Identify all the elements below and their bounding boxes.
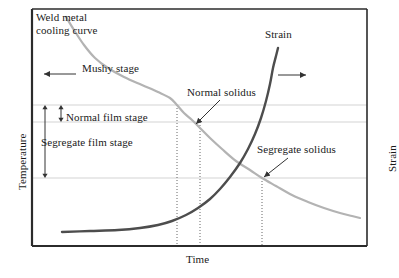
segregate-solidus-pointer	[264, 158, 288, 177]
dotted-vertical-lines	[177, 105, 262, 246]
segregate-film-stage-span-head-bottom	[42, 174, 47, 178]
label-segregate-solidus: Segregate solidus	[257, 143, 336, 156]
label-segregate-film-stage: Segregate film stage	[41, 136, 133, 149]
label-mushy-stage: Mushy stage	[82, 62, 139, 75]
segregate-film-stage-span-head-top	[42, 105, 47, 109]
annotation-arrows	[42, 74, 306, 178]
normal-film-stage-span-head-bottom	[58, 118, 63, 122]
y-axis-label-strain: Strain	[386, 145, 399, 172]
label-normal-film-stage: Normal film stage	[66, 111, 148, 124]
label-normal-solidus: Normal solidus	[187, 86, 256, 99]
label-weld-metal-cooling-curve: Weld metal cooling curve	[36, 11, 97, 36]
normal-film-stage-span-head-top	[58, 105, 63, 109]
label-strain-curve: Strain	[265, 28, 292, 41]
curve-series	[62, 17, 360, 232]
y-axis-label-temperature: Temperature	[16, 133, 29, 190]
x-axis-label: Time	[186, 253, 209, 266]
normal-solidus-pointer	[196, 100, 220, 124]
